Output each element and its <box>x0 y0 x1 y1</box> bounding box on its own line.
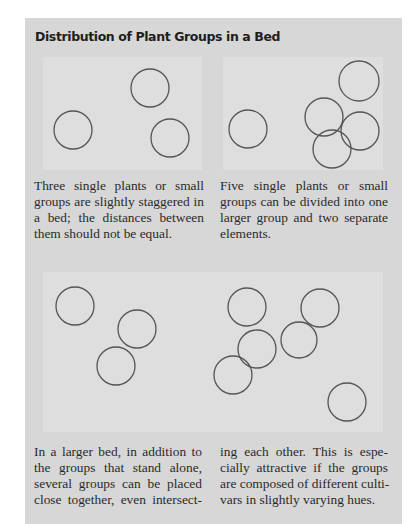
caption-line: Five single plants or small <box>220 178 388 194</box>
plant-group-circle <box>228 288 266 326</box>
caption-larger-bed-col2: ing each other. This is espe- cially att… <box>220 444 388 508</box>
plant-group-circle <box>238 330 276 368</box>
caption-line: the groups that stand alone, <box>34 460 202 476</box>
caption-five-plants: Five single plants or small groups can b… <box>220 178 388 242</box>
plant-group-circle <box>328 383 366 421</box>
plant-group-circle <box>229 110 267 148</box>
panel-three-plants <box>43 57 202 170</box>
plant-group-circle <box>341 112 379 150</box>
caption-line: are composed of different culti- <box>220 476 388 492</box>
plant-group-circle <box>339 61 379 101</box>
plant-group-circle <box>301 289 339 327</box>
plant-group-circle <box>151 119 189 157</box>
caption-line: groups can be divided into one <box>220 194 388 210</box>
caption-line: In a larger bed, in addition to <box>34 444 202 460</box>
plant-group-circle <box>214 356 252 394</box>
plant-group-circle <box>281 322 317 358</box>
caption-line: vars in slightly varying hues. <box>220 492 388 508</box>
caption-line: several groups can be placed <box>34 476 202 492</box>
panel-larger-bed <box>43 272 383 432</box>
plant-group-circle <box>118 310 156 348</box>
caption-larger-bed-col1: In a larger bed, in addition to the grou… <box>34 444 202 508</box>
caption-line: elements. <box>220 226 388 242</box>
caption-three-plants: Three single plants or small groups are … <box>34 178 204 242</box>
figure-title: Distribution of Plant Groups in a Bed <box>35 29 280 44</box>
circles-diagram <box>43 272 383 432</box>
caption-line: ing each other. This is espe- <box>220 444 388 460</box>
plant-group-circle <box>97 347 135 385</box>
circles-diagram <box>223 57 383 170</box>
caption-line: larger group and two separate <box>220 210 388 226</box>
caption-line: cially attractive if the groups <box>220 460 388 476</box>
circles-diagram <box>43 57 202 170</box>
caption-line: close together, even intersect- <box>34 492 202 508</box>
caption-line: a bed; the distances between <box>34 210 204 226</box>
caption-line: them should not be equal. <box>34 226 204 242</box>
caption-line: groups are slightly staggered in <box>34 194 204 210</box>
plant-group-circle <box>313 130 351 168</box>
plant-group-circle <box>131 69 169 107</box>
caption-line: Three single plants or small <box>34 178 204 194</box>
plant-group-circle <box>54 111 92 149</box>
plant-group-circle <box>56 287 94 325</box>
panel-five-plants <box>223 57 383 170</box>
